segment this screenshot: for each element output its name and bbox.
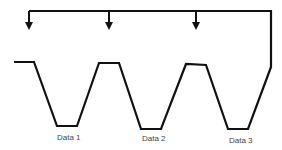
arrow-2 [105,11,113,30]
label-data-3: Data 3 [229,136,253,145]
waveform-line [14,11,271,129]
arrow-3 [192,11,200,30]
label-data-1: Data 1 [57,133,81,142]
waveform-diagram [0,0,282,150]
arrow-1 [25,11,33,30]
label-data-2: Data 2 [142,134,166,143]
